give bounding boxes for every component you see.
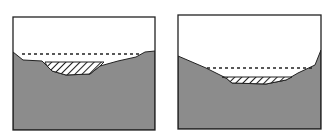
diagram-canvas bbox=[0, 0, 329, 136]
panel-right bbox=[178, 15, 321, 129]
panel-left bbox=[13, 17, 155, 130]
